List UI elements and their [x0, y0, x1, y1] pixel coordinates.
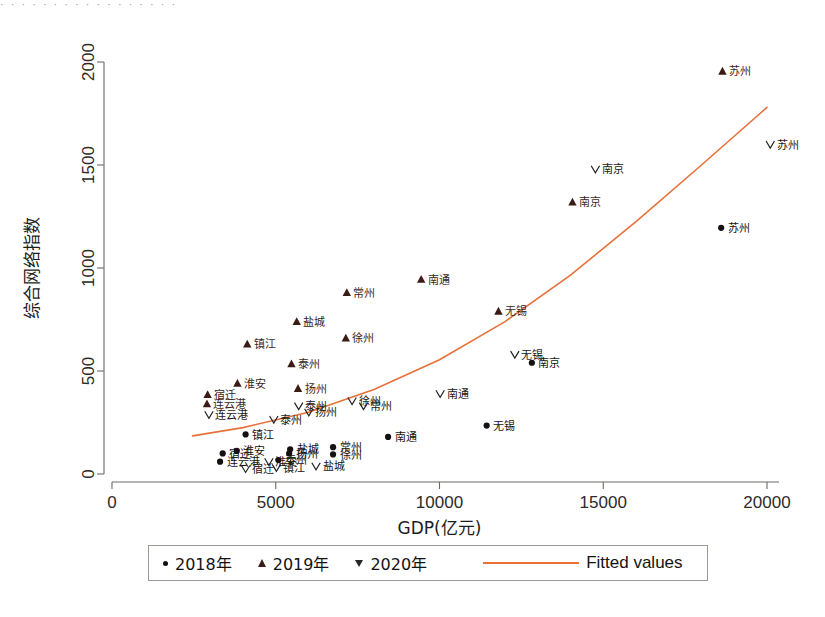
- marker-triangle-up: [293, 317, 301, 325]
- marker-triangle-up: [718, 67, 726, 75]
- point-label: 镇江: [252, 428, 274, 442]
- fitted-values-curve: [193, 107, 767, 436]
- point-label: 徐州: [352, 331, 374, 345]
- marker-triangle-up: [203, 390, 211, 398]
- legend-item-Fittedvalues[interactable]: Fitted values: [483, 553, 682, 573]
- point-label: 徐州: [359, 394, 381, 408]
- point-label: 盐城: [303, 316, 325, 329]
- point-label: 苏州: [777, 139, 799, 152]
- point-label: 镇江: [254, 337, 276, 351]
- marker-triangle-down: [348, 397, 356, 404]
- marker-triangle-up: [494, 307, 502, 315]
- marker-circle: [484, 422, 490, 428]
- x-axis-title: GDP(亿元): [398, 518, 482, 538]
- legend-item-2018年[interactable]: 2018年: [163, 551, 232, 575]
- legend-label: 2018年: [175, 551, 232, 575]
- point-label: 连云港: [215, 409, 248, 422]
- marker-circle: [330, 451, 336, 457]
- point-label: 宿迁: [252, 462, 274, 476]
- marker-triangle-down: [294, 403, 302, 410]
- point-label: 泰州: [280, 413, 302, 427]
- point-label: 盐城: [323, 460, 345, 473]
- marker-circle: [385, 434, 391, 440]
- legend-label: 2020年: [370, 551, 427, 575]
- point-label: 无锡: [521, 348, 543, 362]
- marker-triangle-up: [243, 340, 251, 348]
- fitted-values-line: [193, 107, 767, 436]
- marker-triangle-up: [568, 198, 576, 206]
- legend-line-icon: [483, 562, 579, 564]
- legend-circle-icon: [163, 561, 168, 566]
- point-label: 泰州: [298, 357, 320, 371]
- marker-triangle-down: [511, 351, 519, 358]
- legend-triangle-down-icon: [355, 560, 363, 567]
- marker-triangle-down: [591, 166, 599, 173]
- marker-circle: [217, 459, 223, 465]
- point-label: 扬州: [305, 382, 327, 396]
- x-tick-label: 15000: [580, 493, 627, 512]
- scatter-chart-root: · · · · · · · · · · · · · · · · · 050010…: [0, 0, 825, 617]
- point-label: 淮安: [244, 377, 266, 391]
- y-tick-label: 2000: [79, 43, 98, 81]
- point-label: 无锡: [493, 419, 515, 433]
- marker-triangle-up: [343, 288, 351, 296]
- data-points-group: [203, 67, 775, 473]
- marker-triangle-up: [287, 359, 295, 367]
- marker-triangle-up: [203, 400, 211, 408]
- point-label: 无锡: [505, 304, 527, 318]
- legend-triangle-up-icon: [258, 559, 266, 567]
- data-point-labels-group: 苏州南京无锡南通常州徐州盐城扬州泰州淮安宿迁连云港镇江苏州南京无锡南通常州徐州盐…: [213, 65, 798, 476]
- point-label: 南通: [447, 388, 469, 401]
- point-label: 常州: [353, 287, 375, 300]
- marker-circle: [718, 225, 724, 231]
- point-label: 泰州: [305, 399, 327, 413]
- x-tick-label: 10000: [416, 493, 463, 512]
- point-label: 南通: [428, 274, 450, 287]
- x-tick-label: 0: [107, 493, 116, 512]
- plot-svg: 050010001500200005000100001500020000GDP(…: [0, 0, 825, 617]
- marker-triangle-down: [312, 463, 320, 470]
- y-tick-label: 0: [79, 469, 98, 478]
- marker-triangle-down: [436, 390, 444, 397]
- point-label: 南通: [395, 431, 417, 444]
- legend-item-2020年[interactable]: 2020年: [355, 551, 427, 575]
- point-label: 苏州: [728, 222, 750, 235]
- marker-triangle-up: [417, 275, 425, 283]
- y-axis-title: 综合网络指数: [22, 217, 42, 319]
- point-label: 南京: [579, 195, 601, 209]
- x-tick-label: 20000: [743, 493, 790, 512]
- marker-circle: [243, 431, 249, 437]
- marker-triangle-up: [294, 384, 302, 392]
- marker-triangle-up: [342, 334, 350, 342]
- point-label: 苏州: [729, 65, 751, 78]
- y-tick-label: 1500: [79, 146, 98, 184]
- y-tick-label: 1000: [79, 249, 98, 287]
- axes-group: 050010001500200005000100001500020000GDP(…: [22, 43, 791, 538]
- point-label: 南京: [602, 162, 624, 176]
- x-tick-label: 5000: [257, 493, 295, 512]
- marker-circle: [330, 444, 336, 450]
- point-label: 镇江: [283, 461, 305, 475]
- marker-triangle-down: [766, 141, 774, 148]
- legend-entries: 2018年2019年2020年Fitted values: [149, 546, 707, 580]
- legend-label: 2019年: [273, 551, 330, 575]
- chart-legend: 2018年2019年2020年Fitted values: [148, 545, 708, 581]
- marker-triangle-down: [205, 411, 213, 418]
- marker-triangle-up: [233, 379, 241, 387]
- marker-circle: [220, 450, 226, 456]
- legend-item-2019年[interactable]: 2019年: [258, 551, 330, 575]
- legend-label: Fitted values: [586, 553, 682, 573]
- y-tick-label: 500: [79, 357, 98, 385]
